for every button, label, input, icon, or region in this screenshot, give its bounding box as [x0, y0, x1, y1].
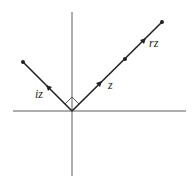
z-endpoint-dot — [123, 57, 127, 61]
iz-endpoint-dot — [21, 60, 25, 64]
label-rz: rz — [149, 37, 158, 49]
diagram-canvas — [0, 0, 193, 184]
label-z: z — [108, 79, 113, 91]
label-iz: iz — [35, 88, 43, 100]
complex-plane-diagram: iz z rz — [0, 0, 193, 184]
rz-endpoint-dot — [160, 20, 164, 24]
